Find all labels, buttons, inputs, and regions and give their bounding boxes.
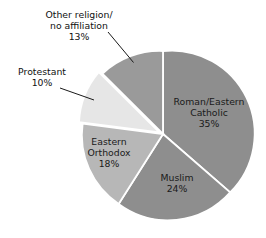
slice-label-line-2: Catholic — [168, 107, 250, 118]
slice-label-roman-eastern-catholic: Roman/Eastern Catholic 35% — [168, 96, 250, 130]
slice-value-muslim: 24% — [146, 183, 208, 194]
slice-value-protestant: 10% — [6, 77, 78, 88]
slice-label-line-1: Eastern — [73, 136, 145, 147]
pie-chart-figure: Roman/Eastern Catholic 35% Muslim 24% Ea… — [0, 0, 266, 238]
slice-label-eastern-orthodox: Eastern Orthodox 18% — [73, 136, 145, 170]
slice-label-line-2: Orthodox — [73, 147, 145, 158]
slice-value-eastern-orthodox: 18% — [73, 158, 145, 169]
slice-value-other-religion-no-affiliation: 13% — [32, 31, 126, 42]
slice-value-roman-eastern-catholic: 35% — [168, 118, 250, 129]
slice-label-line-2: no affiliation — [32, 20, 126, 31]
slice-label-other-religion-no-affiliation: Other religion/ no affiliation 13% — [32, 9, 126, 43]
slice-label-muslim: Muslim 24% — [146, 172, 208, 194]
slice-label-line-1: Other religion/ — [32, 9, 126, 20]
slice-label-line-1: Protestant — [6, 66, 78, 77]
slice-label-line-1: Muslim — [146, 172, 208, 183]
slice-label-line-1: Roman/Eastern — [168, 96, 250, 107]
slice-label-protestant: Protestant 10% — [6, 66, 78, 88]
